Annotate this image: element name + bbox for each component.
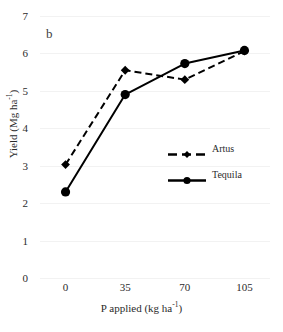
- data-point-marker: [121, 90, 130, 99]
- y-axis-tick-label: 0: [23, 273, 29, 284]
- x-axis-title-base: P applied (kg ha: [101, 302, 172, 314]
- y-axis-tick-label: 4: [23, 123, 29, 134]
- y-axis-tick-label: 6: [23, 48, 29, 59]
- legend-item-artus[interactable]: Artus: [168, 141, 268, 167]
- y-axis-tick-label: 2: [23, 198, 29, 209]
- y-axis-tick-label: 1: [23, 235, 29, 246]
- x-axis-tick-label: 0: [63, 282, 69, 293]
- y-axis-tick-labels: 01234567: [0, 16, 34, 278]
- legend-swatch: [168, 172, 206, 183]
- x-axis-title-tail: ): [178, 302, 182, 314]
- chart-legend: ArtusTequila: [168, 141, 268, 193]
- data-point-marker: [183, 177, 190, 184]
- chart-figure: Yield (Mg ha-1) 01234567 b 03570105 P ap…: [0, 0, 283, 332]
- data-point-marker: [121, 66, 130, 75]
- x-axis-title: P applied (kg ha-1): [0, 302, 283, 314]
- y-axis-tick-label: 7: [23, 11, 29, 22]
- data-point-marker: [180, 59, 189, 68]
- legend-item-tequila[interactable]: Tequila: [168, 167, 268, 193]
- legend-swatch: [168, 146, 206, 157]
- x-axis-tick-label: 105: [236, 282, 253, 293]
- y-axis-tick-label: 5: [23, 85, 29, 96]
- data-point-marker: [61, 187, 70, 196]
- y-axis-tick-label: 3: [23, 160, 29, 171]
- data-point-marker: [240, 46, 249, 55]
- legend-label: Tequila: [212, 169, 242, 180]
- data-point-marker: [184, 151, 191, 158]
- gridline: [40, 278, 270, 279]
- data-point-marker: [180, 75, 189, 84]
- panel-label: b: [46, 26, 53, 42]
- x-axis-tick-label: 35: [120, 282, 131, 293]
- x-axis-tick-labels: 03570105: [40, 282, 270, 298]
- x-axis-tick-label: 70: [179, 282, 190, 293]
- legend-label: Artus: [212, 143, 234, 154]
